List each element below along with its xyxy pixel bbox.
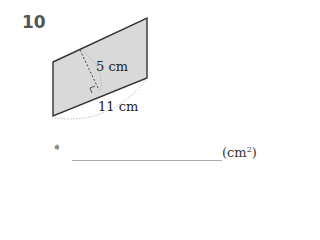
base-label: 11 cm [98, 99, 138, 114]
height-label: 5 cm [96, 59, 128, 74]
answer-unit: (cm2) [222, 145, 257, 160]
answer-line[interactable] [72, 160, 222, 161]
arrow-icon: ➧ [52, 140, 62, 154]
